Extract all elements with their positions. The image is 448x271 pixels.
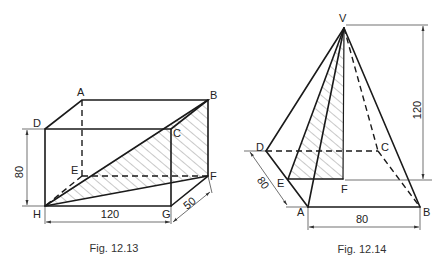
vertex-label-c: C bbox=[173, 127, 181, 139]
vertex-label-v: V bbox=[339, 12, 347, 24]
vertex-label-b: B bbox=[423, 206, 430, 218]
figure-12-14: V D C A B E F 120 80 80 Fig. 12.14 bbox=[244, 12, 432, 255]
hidden-edge-vc bbox=[344, 28, 378, 151]
vertex-label-b: B bbox=[210, 89, 217, 101]
dimension-base-side: 80 bbox=[356, 213, 368, 225]
vertex-label-f: F bbox=[210, 170, 217, 182]
vertex-label-g: G bbox=[162, 208, 171, 220]
dimension-length: 120 bbox=[101, 208, 119, 220]
diagram-canvas: A B C D E F G H 80 120 50 Fig. 12.13 bbox=[0, 0, 448, 271]
vertex-label-a: A bbox=[77, 86, 85, 98]
vertex-label-h: H bbox=[33, 208, 41, 220]
dimension-depth: 50 bbox=[181, 194, 198, 211]
vertex-label-e: E bbox=[277, 177, 284, 189]
vertex-label-a: A bbox=[297, 206, 305, 218]
figure-caption: Fig. 12.13 bbox=[90, 242, 139, 254]
vertex-label-f: F bbox=[341, 183, 348, 195]
vertex-label-e: E bbox=[71, 164, 78, 176]
figure-12-13: A B C D E F G H 80 120 50 Fig. 12.13 bbox=[13, 86, 217, 254]
dimension-base-depth: 80 bbox=[255, 174, 272, 191]
figure-caption: Fig. 12.14 bbox=[338, 243, 387, 255]
dimension-height: 80 bbox=[13, 166, 25, 178]
vertex-label-c: C bbox=[381, 141, 389, 153]
vertex-label-d: D bbox=[33, 117, 41, 129]
dimension-height: 120 bbox=[411, 101, 423, 119]
